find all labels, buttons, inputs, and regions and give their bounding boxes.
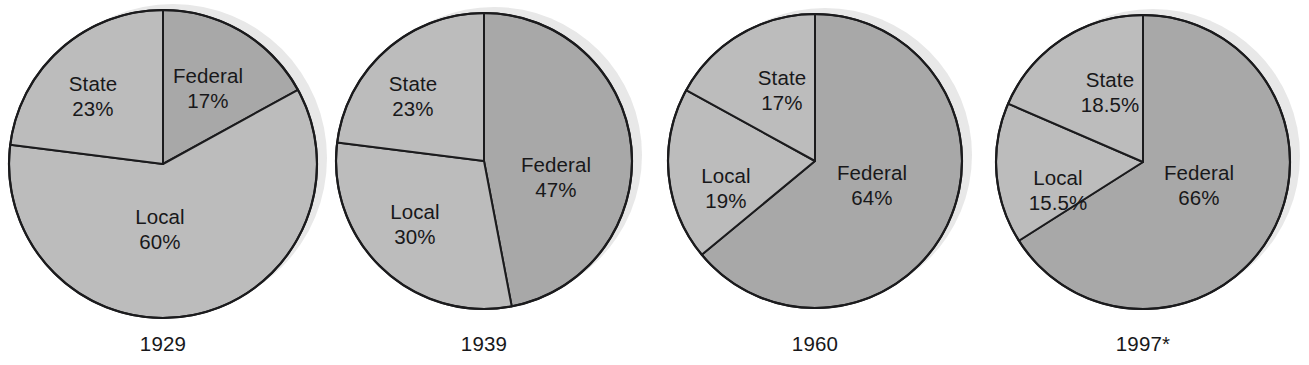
pie-outline: [668, 14, 962, 308]
pie-chart-3: Federal66%Local15.5%State18.5%1997*: [0, 0, 1309, 365]
slice-label-name: Federal: [1164, 160, 1234, 185]
slice-label-local: Local19%: [701, 163, 751, 213]
pie-year-label: 1939: [461, 332, 507, 356]
slice-label-federal: Federal64%: [837, 160, 907, 210]
slice-label-federal: Federal66%: [1164, 160, 1234, 210]
pie-slice-state: [1008, 15, 1143, 162]
slice-label-name: Federal: [173, 63, 243, 88]
pie-year-label: 1960: [792, 332, 838, 356]
pie-outline: [9, 10, 317, 318]
pie-slice-local: [9, 90, 317, 318]
slice-label-value: 64%: [837, 185, 907, 210]
pie-slice-state: [337, 13, 484, 161]
slice-label-name: State: [758, 65, 806, 90]
slice-label-local: Local60%: [135, 204, 185, 254]
slice-label-value: 23%: [69, 96, 117, 121]
slice-label-name: Local: [135, 204, 185, 229]
pie-drop-shadow: [346, 7, 642, 303]
pie-drop-shadow: [678, 8, 972, 302]
slice-label-state: State17%: [758, 65, 806, 115]
slice-label-value: 60%: [135, 229, 185, 254]
pie-chart-figure: Federal17%Local60%State23%1929Federal47%…: [0, 0, 1309, 365]
pie-graphic: [0, 0, 1309, 365]
pie-chart-0: Federal17%Local60%State23%1929: [0, 0, 1309, 365]
slice-label-value: 19%: [701, 188, 751, 213]
slice-label-value: 17%: [173, 88, 243, 113]
pie-year-label: 1997*: [1116, 332, 1171, 356]
slice-label-value: 15.5%: [1029, 190, 1088, 215]
pie-slice-state: [686, 14, 815, 161]
pie-slice-federal: [702, 14, 962, 308]
slice-label-value: 23%: [389, 96, 437, 121]
slice-label-state: State18.5%: [1081, 67, 1140, 117]
slice-label-local: Local15.5%: [1029, 165, 1088, 215]
slice-label-value: 30%: [390, 224, 440, 249]
slice-label-local: Local30%: [390, 199, 440, 249]
slice-label-name: Federal: [521, 152, 591, 177]
pie-slice-local: [668, 90, 815, 255]
pie-slice-local: [336, 142, 512, 309]
slice-label-value: 66%: [1164, 185, 1234, 210]
slice-label-state: State23%: [69, 71, 117, 121]
pie-graphic: [0, 0, 1309, 365]
pie-slice-state: [10, 10, 163, 164]
pie-slice-federal: [484, 13, 632, 306]
pie-outline: [996, 15, 1290, 309]
pie-graphic: [0, 0, 1309, 365]
pie-chart-2: Federal64%Local19%State17%1960: [0, 0, 1309, 365]
slice-label-value: 18.5%: [1081, 92, 1140, 117]
slice-label-federal: Federal47%: [521, 152, 591, 202]
slice-label-name: Federal: [837, 160, 907, 185]
slice-label-state: State23%: [389, 71, 437, 121]
pie-year-label: 1929: [140, 332, 186, 356]
slice-label-name: State: [1081, 67, 1140, 92]
pie-drop-shadow: [19, 4, 327, 312]
slice-label-name: State: [69, 71, 117, 96]
pie-graphic: [0, 0, 1309, 365]
slice-label-federal: Federal17%: [173, 63, 243, 113]
pie-slice-federal: [1019, 15, 1290, 309]
slice-label-value: 17%: [758, 90, 806, 115]
pie-drop-shadow: [1006, 9, 1300, 303]
slice-label-name: Local: [701, 163, 751, 188]
slice-label-name: Local: [390, 199, 440, 224]
pie-outline: [336, 13, 632, 309]
slice-label-name: Local: [1029, 165, 1088, 190]
pie-chart-1: Federal47%Local30%State23%1939: [0, 0, 1309, 365]
slice-label-value: 47%: [521, 177, 591, 202]
pie-slice-federal: [163, 10, 298, 164]
pie-slice-local: [996, 104, 1143, 241]
slice-label-name: State: [389, 71, 437, 96]
